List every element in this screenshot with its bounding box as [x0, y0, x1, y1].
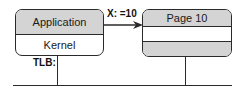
kernel-label: Kernel — [44, 39, 76, 51]
page-label: Page 10 — [167, 12, 208, 24]
arrow-icon — [103, 20, 145, 30]
page-box: Page 10 — [142, 9, 232, 57]
right-connector-line — [185, 57, 186, 86]
application-label: Application — [33, 16, 87, 28]
page-middle-section — [143, 26, 231, 41]
baseline — [13, 85, 232, 86]
arrow-label: X: =10 — [107, 8, 137, 19]
page-header-section: Page 10 — [143, 10, 231, 26]
application-section: Application — [16, 10, 103, 34]
kernel-section: Kernel — [16, 34, 103, 55]
application-box: Application Kernel — [15, 9, 104, 56]
tlb-label: TLB: — [33, 57, 56, 68]
left-connector-line — [57, 56, 58, 86]
page-bottom-section — [143, 41, 231, 56]
